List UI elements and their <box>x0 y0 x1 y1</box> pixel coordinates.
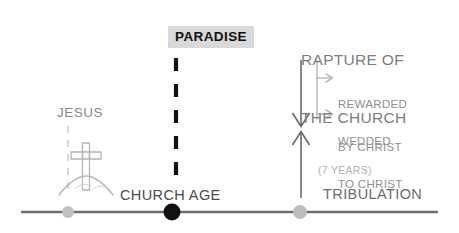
wedded-to-christ-label: WEDDED TO CHRIST <box>338 105 402 220</box>
wedded-line1: WEDDED <box>338 134 402 148</box>
jesus-marker <box>62 206 74 218</box>
tribulation-marker <box>293 205 307 219</box>
jesus-label: JESUS <box>57 105 103 120</box>
rapture-heading-line1: RAPTURE OF <box>301 50 406 69</box>
prophecy-timeline-diagram: RAPTURE OF THE CHURCH PARADISE JESUS CHU… <box>0 0 459 233</box>
church-age-marker <box>164 204 181 221</box>
church-age-label: CHURCH AGE <box>120 187 221 204</box>
wedded-line2: TO CHRIST <box>338 177 402 191</box>
cross-on-hill-icon <box>59 143 113 195</box>
paradise-label: PARADISE <box>168 26 254 48</box>
